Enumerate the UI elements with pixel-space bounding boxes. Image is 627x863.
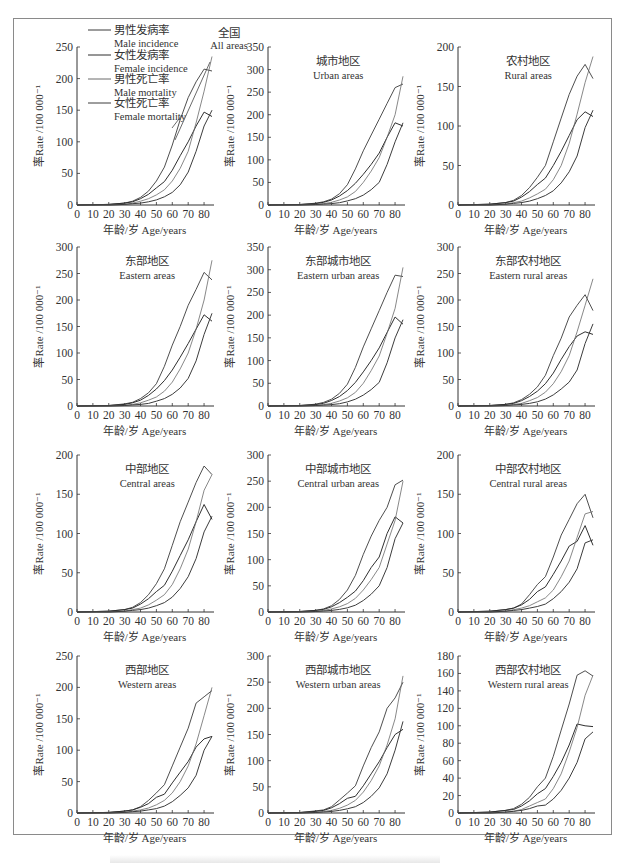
y-tick-label: 100 [56, 528, 74, 540]
y-tick-label: 50 [62, 776, 74, 788]
x-axis-label: 年龄/岁 Age/years [484, 424, 567, 437]
y-tick-label: 120 [437, 702, 455, 714]
x-tick-label: 60 [358, 615, 370, 627]
y-tick-label: 0 [67, 400, 73, 412]
y-tick-label: 100 [247, 154, 265, 166]
series-line-female-incidence [458, 332, 593, 406]
x-tick-label: 40 [516, 409, 528, 421]
series-line-male-mortality [268, 76, 403, 205]
y-tick-label: 200 [437, 294, 455, 306]
y-axis-label: 率Rate /100 000⁻¹ [32, 85, 45, 167]
y-tick-label: 250 [56, 650, 74, 662]
x-tick-label: 50 [532, 816, 544, 828]
y-tick-label: 50 [253, 377, 265, 389]
series-line-male-incidence [77, 691, 212, 814]
x-tick-label: 10 [278, 816, 290, 828]
x-axis-label: 年龄/岁 Age/years [294, 223, 377, 236]
panel-title-zh: 中部农村地区 [495, 462, 561, 476]
panel-title-zh: 东部城市地区 [305, 254, 371, 268]
y-tick-label: 100 [247, 355, 265, 367]
x-tick-label: 0 [455, 816, 461, 828]
x-tick-label: 20 [103, 409, 115, 421]
series-line-male-mortality [77, 687, 212, 813]
x-tick-label: 70 [563, 816, 575, 828]
series-line-female-mortality [458, 110, 593, 205]
x-tick-label: 60 [167, 816, 179, 828]
y-tick-label: 20 [443, 790, 455, 802]
x-axis-label: 年龄/岁 Age/years [103, 630, 186, 643]
panel-title-zh: 农村地区 [506, 54, 550, 68]
x-axis-label: 年龄/岁 Age/years [294, 424, 377, 437]
x-tick-label: 20 [294, 409, 306, 421]
y-tick-label: 0 [67, 807, 73, 819]
x-tick-label: 70 [182, 615, 194, 627]
series-line-male-incidence [458, 295, 593, 406]
x-tick-label: 80 [579, 816, 591, 828]
panel-title-zh: 中部城市地区 [305, 462, 371, 476]
x-tick-label: 10 [87, 409, 99, 421]
y-tick-label: 100 [247, 755, 265, 767]
y-tick-label: 300 [56, 241, 74, 253]
series-line-female-incidence [268, 317, 403, 406]
series-line-male-mortality [268, 676, 403, 813]
x-tick-label: 70 [563, 409, 575, 421]
x-axis-label: 年龄/岁 Age/years [484, 831, 567, 844]
y-tick-label: 50 [62, 374, 74, 386]
x-axis-label: 年龄/岁 Age/years [103, 223, 186, 236]
x-tick-label: 30 [310, 816, 322, 828]
x-tick-label: 0 [74, 615, 80, 627]
x-tick-label: 10 [468, 409, 480, 421]
y-axis-label: 率Rate /100 000⁻¹ [413, 693, 426, 775]
y-tick-label: 300 [247, 264, 265, 276]
panel-title-en: All areas [210, 40, 248, 51]
x-tick-label: 30 [500, 409, 512, 421]
x-tick-label: 80 [198, 208, 210, 220]
series-line-male-incidence [77, 272, 212, 406]
x-tick-label: 80 [389, 816, 401, 828]
x-tick-label: 10 [278, 409, 290, 421]
y-tick-label: 200 [56, 294, 74, 306]
x-tick-label: 50 [342, 816, 354, 828]
x-tick-label: 70 [373, 208, 385, 220]
y-tick-label: 250 [247, 286, 265, 298]
panel-title-en: Central areas [120, 478, 175, 489]
y-tick-label: 150 [247, 131, 265, 143]
y-tick-label: 150 [437, 488, 455, 500]
y-tick-label: 200 [247, 702, 265, 714]
x-tick-label: 10 [87, 208, 99, 220]
x-tick-label: 10 [468, 816, 480, 828]
legend-label-en: Female mortality [114, 111, 187, 122]
x-tick-label: 30 [500, 208, 512, 220]
x-tick-label: 0 [265, 208, 271, 220]
panel-title-en: Eastern areas [119, 270, 175, 281]
x-tick-label: 40 [326, 615, 338, 627]
y-tick-label: 200 [56, 681, 74, 693]
y-tick-label: 0 [67, 199, 73, 211]
x-tick-label: 30 [119, 816, 131, 828]
panel-title-zh: 东部地区 [125, 254, 169, 268]
y-tick-label: 200 [437, 41, 455, 53]
x-tick-label: 80 [579, 208, 591, 220]
x-tick-label: 30 [119, 409, 131, 421]
y-tick-label: 250 [56, 268, 74, 280]
y-axis-label: 率Rate /100 000⁻¹ [413, 492, 426, 574]
series-line-female-incidence [77, 736, 212, 813]
figure-caption-cropped [110, 855, 440, 863]
x-tick-label: 40 [135, 208, 147, 220]
series-line-male-incidence [458, 64, 593, 205]
x-tick-label: 40 [516, 816, 528, 828]
x-tick-label: 60 [167, 615, 179, 627]
y-tick-label: 50 [62, 167, 74, 179]
series-line-male-mortality [458, 675, 593, 813]
x-tick-label: 50 [532, 409, 544, 421]
y-axis-label: 率Rate /100 000⁻¹ [413, 85, 426, 167]
y-axis-label: 率Rate /100 000⁻¹ [32, 693, 45, 775]
series-line-female-mortality [268, 523, 403, 612]
panel-title-en: Western urban areas [296, 679, 381, 690]
y-axis-label: 率Rate /100 000⁻¹ [32, 492, 45, 574]
x-tick-label: 0 [74, 208, 80, 220]
series-line-female-mortality [77, 110, 212, 205]
y-tick-label: 200 [247, 309, 265, 321]
series-line-male-mortality [458, 512, 593, 613]
x-tick-label: 30 [310, 409, 322, 421]
